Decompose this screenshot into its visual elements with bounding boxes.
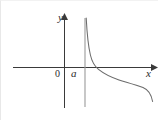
origin-label: 0 bbox=[55, 69, 60, 79]
x-axis-arrow-icon bbox=[151, 64, 158, 71]
function-curve bbox=[86, 18, 152, 102]
coordinate-plot bbox=[1, 1, 158, 120]
x-axis-label: x bbox=[146, 68, 151, 79]
asymptote-label: a bbox=[71, 68, 77, 79]
figure-container: y x 0 a bbox=[0, 0, 158, 120]
y-axis-label: y bbox=[58, 12, 63, 23]
